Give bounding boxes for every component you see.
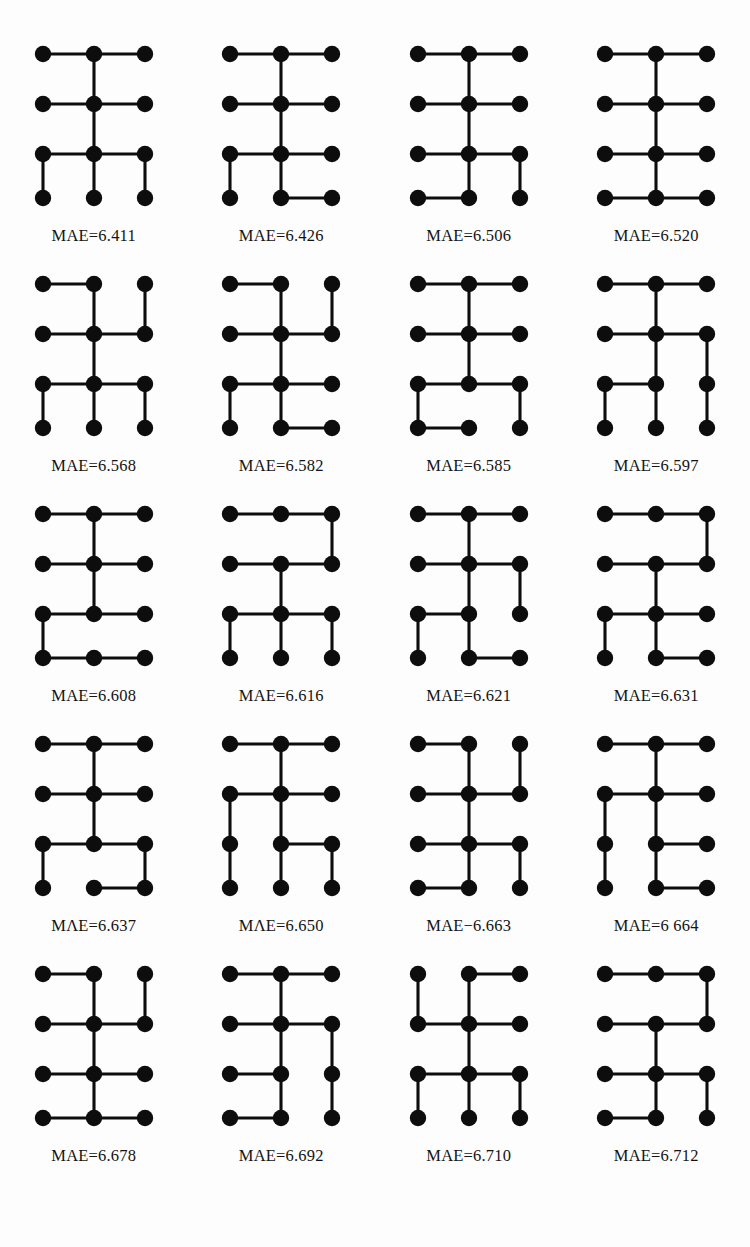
graph-node (222, 650, 238, 666)
graph-node (699, 606, 715, 622)
graph-caption: MAE=6.631 (614, 686, 699, 706)
graph-node (273, 46, 289, 62)
graph-caption: MΛE=6.650 (239, 916, 324, 936)
graph-node (35, 96, 51, 112)
graph-node (222, 376, 238, 392)
graph-node (648, 880, 664, 896)
graph-node (512, 276, 528, 292)
lattice-graph (404, 500, 534, 672)
graph-node (461, 736, 477, 752)
graph-node (324, 1110, 340, 1126)
graph-node (461, 276, 477, 292)
lattice-graph (591, 270, 721, 442)
graph-node (512, 190, 528, 206)
graph-node (86, 1016, 102, 1032)
graph-cell: MAE=6.616 (188, 500, 376, 730)
lattice-graph (404, 40, 534, 212)
graph-node (648, 46, 664, 62)
graph-node (35, 606, 51, 622)
graph-node (86, 420, 102, 436)
graph-node (597, 276, 613, 292)
graph-node (699, 836, 715, 852)
graph-node (699, 276, 715, 292)
graph-cell: MAE=6.426 (188, 40, 376, 270)
graph-node (512, 736, 528, 752)
graph-caption: MAE=6.710 (426, 1146, 511, 1166)
lattice-graph (29, 960, 159, 1132)
graph-node (324, 1066, 340, 1082)
graph-node (273, 96, 289, 112)
graph-node (324, 326, 340, 342)
graph-node (461, 880, 477, 896)
graph-node (597, 1016, 613, 1032)
graph-cell: MAE=6.568 (0, 270, 188, 500)
graph-node (86, 786, 102, 802)
graph-node (137, 836, 153, 852)
graph-node (222, 326, 238, 342)
graph-node (461, 376, 477, 392)
graph-cell: MΛE=6.637 (0, 730, 188, 960)
graph-node (137, 190, 153, 206)
graph-node (461, 96, 477, 112)
graph-node (461, 1016, 477, 1032)
graph-node (699, 190, 715, 206)
graph-node (699, 736, 715, 752)
graph-node (648, 376, 664, 392)
graph-node (410, 146, 426, 162)
graph-node (222, 966, 238, 982)
graph-node (137, 1016, 153, 1032)
graph-node (137, 556, 153, 572)
graph-node (648, 786, 664, 802)
graph-node (699, 376, 715, 392)
graph-node (324, 376, 340, 392)
graph-node (699, 650, 715, 666)
graph-node (648, 966, 664, 982)
graph-node (324, 46, 340, 62)
graph-cell: MAE=6.608 (0, 500, 188, 730)
graph-node (699, 326, 715, 342)
graph-grid: MAE=6.411MAE=6.426MAE=6.506MAE=6.520MAE=… (0, 40, 750, 1190)
graph-node (648, 146, 664, 162)
lattice-graph (29, 270, 159, 442)
graph-node (86, 966, 102, 982)
graph-node (597, 736, 613, 752)
graph-cell: MAE−6.663 (375, 730, 563, 960)
graph-node (699, 1016, 715, 1032)
graph-node (410, 506, 426, 522)
lattice-graph (216, 270, 346, 442)
graph-node (410, 556, 426, 572)
graph-node (597, 1110, 613, 1126)
graph-node (137, 880, 153, 896)
graph-cell: MAE=6.585 (375, 270, 563, 500)
lattice-graph (216, 960, 346, 1132)
graph-node (410, 326, 426, 342)
graph-node (222, 736, 238, 752)
graph-node (410, 650, 426, 666)
graph-cell: MAE=6.712 (563, 960, 750, 1190)
graph-node (222, 836, 238, 852)
graph-caption: MAE=6.585 (426, 456, 511, 476)
graph-node (512, 506, 528, 522)
graph-node (699, 880, 715, 896)
graph-node (648, 326, 664, 342)
graph-node (648, 606, 664, 622)
graph-node (512, 96, 528, 112)
graph-node (137, 276, 153, 292)
graph-node (273, 506, 289, 522)
graph-node (222, 420, 238, 436)
lattice-graph (404, 270, 534, 442)
graph-node (597, 880, 613, 896)
graph-node (222, 1066, 238, 1082)
lattice-graph (216, 730, 346, 902)
lattice-graph (404, 960, 534, 1132)
graph-node (699, 96, 715, 112)
graph-node (699, 1066, 715, 1082)
graph-node (597, 326, 613, 342)
graph-node (648, 1066, 664, 1082)
graph-node (86, 96, 102, 112)
graph-node (461, 190, 477, 206)
graph-node (597, 1066, 613, 1082)
graph-node (35, 420, 51, 436)
graph-node (512, 376, 528, 392)
graph-node (597, 606, 613, 622)
